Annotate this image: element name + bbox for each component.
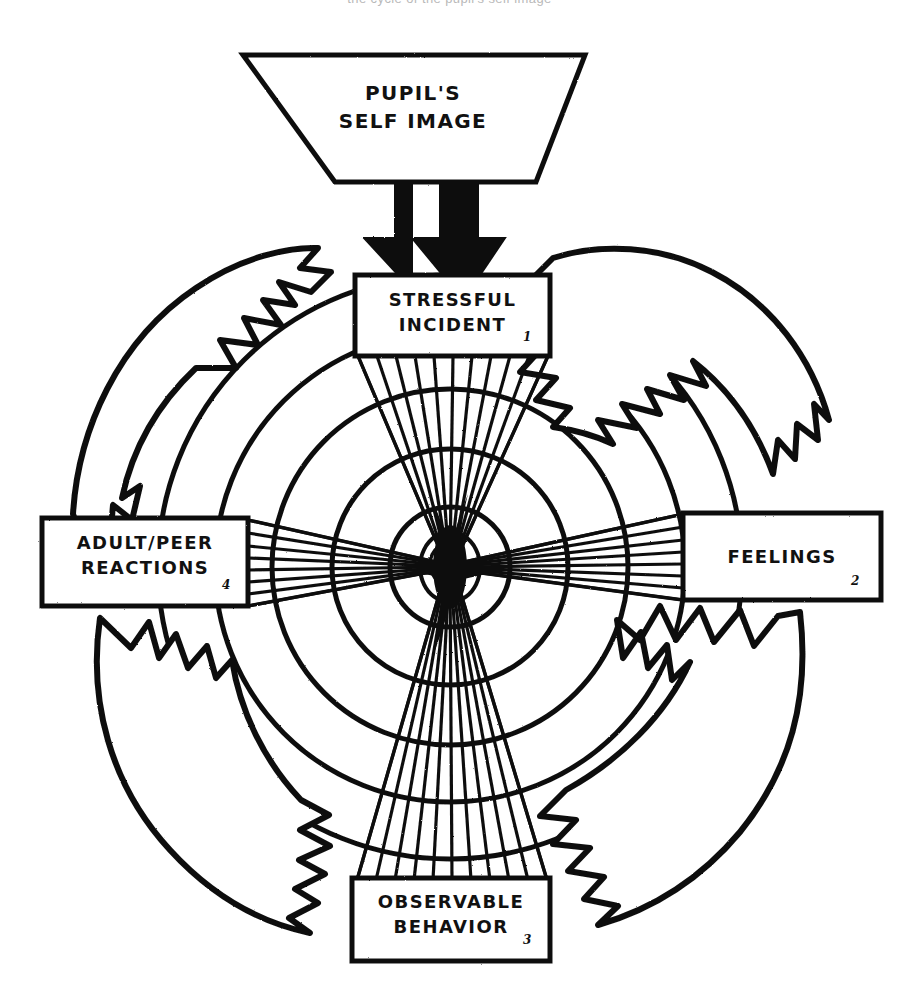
number-badge-feelings: 2 [851, 574, 859, 588]
number-badge-observable-behavior: 3 [523, 933, 531, 947]
pupils-self-image-funnel [243, 55, 585, 182]
number-badge-adult-peer-reactions: 4 [222, 578, 230, 592]
node-box-stressful-incident[interactable] [355, 275, 550, 356]
node-box-adult-peer-reactions[interactable] [42, 518, 248, 606]
cycle-arrow-top-left [73, 248, 331, 556]
cycle-arrow-bottom-left [97, 618, 330, 933]
stress-cycle-illustration [0, 0, 899, 999]
beam-fan-bottom [357, 574, 547, 880]
diagram-canvas: the cycle of the pupil's self image [0, 0, 899, 999]
node-box-observable-behavior[interactable] [352, 878, 550, 961]
number-badge-stressful-incident: 1 [523, 330, 531, 344]
